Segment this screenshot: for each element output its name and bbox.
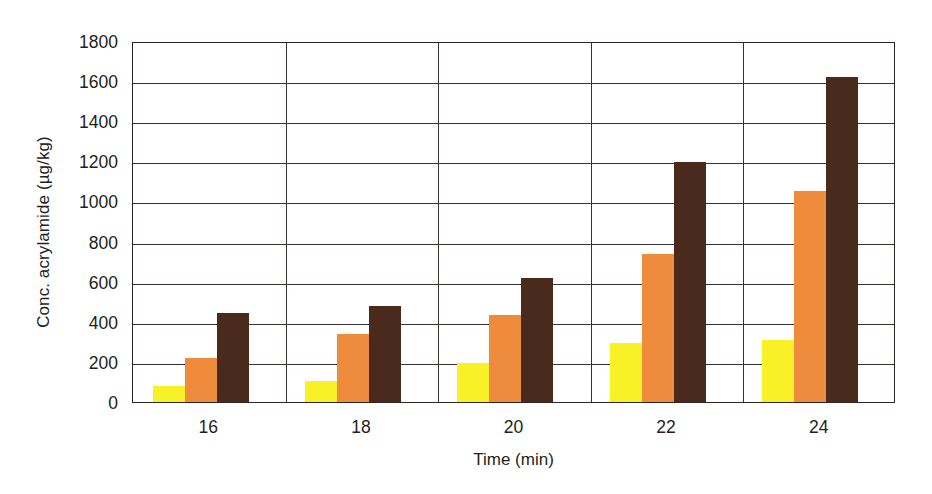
y-axis-tick-labels: 180016001400120010008006004002000 bbox=[60, 42, 126, 403]
x-tick-cell: 20 bbox=[437, 408, 590, 442]
bar-group bbox=[437, 43, 589, 402]
y-axis-title: Conc. acrylamide (µg/kg) bbox=[34, 82, 54, 382]
bar-group bbox=[590, 43, 742, 402]
y-tick-label: 1000 bbox=[79, 192, 118, 213]
y-tick-label: 0 bbox=[108, 393, 118, 414]
bar bbox=[457, 363, 489, 402]
bar bbox=[762, 340, 794, 402]
bar-group bbox=[285, 43, 437, 402]
x-tick-cell: 24 bbox=[742, 408, 895, 442]
bar bbox=[153, 386, 185, 402]
plot-area bbox=[132, 42, 895, 403]
x-axis-title: Time (min) bbox=[132, 450, 895, 470]
bar bbox=[674, 162, 706, 402]
y-tick-label: 800 bbox=[89, 232, 118, 253]
bar bbox=[185, 358, 217, 402]
x-tick-cell: 16 bbox=[132, 408, 285, 442]
bar bbox=[337, 334, 369, 402]
x-tick-label: 16 bbox=[132, 417, 285, 438]
y-tick-label: 1400 bbox=[79, 112, 118, 133]
bar bbox=[305, 381, 337, 402]
bar bbox=[217, 313, 249, 402]
x-tick-label: 24 bbox=[742, 417, 895, 438]
bar bbox=[826, 77, 858, 402]
bar-group bbox=[133, 43, 285, 402]
x-tick-label: 22 bbox=[590, 417, 743, 438]
x-tick-label: 18 bbox=[285, 417, 438, 438]
bar bbox=[642, 254, 674, 402]
bar bbox=[610, 343, 642, 402]
x-tick-cell: 22 bbox=[590, 408, 743, 442]
y-tick-label: 600 bbox=[89, 272, 118, 293]
y-tick-label: 200 bbox=[89, 352, 118, 373]
bar bbox=[369, 306, 401, 402]
bar bbox=[521, 278, 553, 402]
bars-layer bbox=[133, 43, 894, 402]
y-tick-label: 1800 bbox=[79, 32, 118, 53]
bar-group bbox=[742, 43, 894, 402]
bar bbox=[794, 191, 826, 402]
y-tick-label: 1600 bbox=[79, 72, 118, 93]
y-tick-label: 1200 bbox=[79, 152, 118, 173]
x-tick-label: 20 bbox=[437, 417, 590, 438]
bar bbox=[489, 315, 521, 402]
x-tick-cell: 18 bbox=[285, 408, 438, 442]
x-axis-tick-labels: 1618202224 bbox=[132, 408, 895, 442]
y-tick-label: 400 bbox=[89, 312, 118, 333]
bar-chart: Conc. acrylamide (µg/kg) 180016001400120… bbox=[0, 0, 932, 494]
